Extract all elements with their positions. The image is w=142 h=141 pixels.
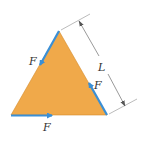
dimension-label: L: [97, 61, 105, 74]
dimension-line-upper: [79, 21, 99, 56]
extension-line-bottom: [109, 99, 137, 114]
dimension-line-lower: [108, 74, 125, 106]
triangle-diagram: L F F F: [0, 0, 142, 141]
triangular-plate: [11, 31, 107, 115]
force-label-bottom: F: [42, 121, 51, 134]
force-label-left: F: [28, 55, 37, 68]
extension-line-top: [61, 14, 90, 30]
force-label-right: F: [93, 79, 102, 92]
